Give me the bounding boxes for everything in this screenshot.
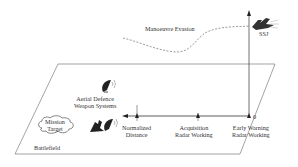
normalized-distance-line1: Normalized	[122, 124, 151, 131]
vertical-axis-arrow-icon	[247, 10, 251, 16]
early-warning-line2: Radar Working	[232, 131, 270, 138]
acquisition-line1: Acquisition	[175, 124, 213, 131]
aerial-defence-line1: Aerial Defence	[74, 95, 116, 102]
manoeuvre-evasion-label: Manoeuvre Evasion	[145, 25, 195, 32]
aerial-defence-line2: Weapon Systems	[74, 102, 116, 109]
mission-target-line1: Mission	[45, 118, 65, 125]
acquisition-radar-label: Acquisition Radar Working	[175, 124, 213, 138]
origin-label: 0	[253, 113, 256, 120]
normalized-distance-label: Normalized Distance	[122, 124, 151, 138]
battlefield-label: Battlefield	[34, 144, 60, 151]
battlefield-plane	[15, 64, 275, 154]
aerial-defence-label: Aerial Defence Weapon Systems	[74, 95, 116, 109]
ssj-label: SSJ	[259, 30, 268, 37]
acquisition-line2: Radar Working	[175, 131, 213, 138]
mission-target-label: Mission Target	[45, 118, 65, 132]
early-warning-radar-label: Early Warning Radar Working	[232, 124, 270, 138]
mission-target-line2: Target	[45, 125, 65, 132]
normalized-distance-line2: Distance	[122, 131, 151, 138]
ssj-aircraft-icon	[252, 18, 279, 30]
early-warning-line1: Early Warning	[232, 124, 270, 131]
